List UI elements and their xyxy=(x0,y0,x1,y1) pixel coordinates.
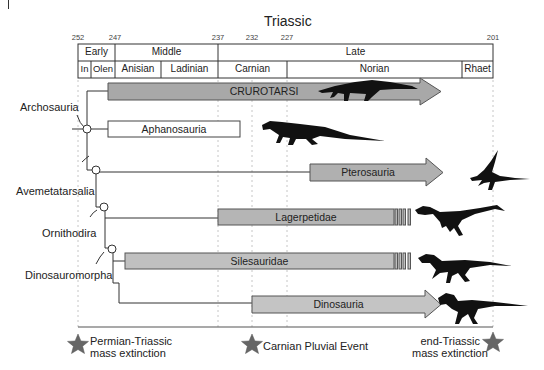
event-end-triassic: end-Triassic mass extinction xyxy=(412,335,480,359)
taxon-crurotarsi: CRUROTARSI xyxy=(108,83,420,99)
stage-anisian: Anisian xyxy=(115,61,161,77)
clade-dinosauromorpha: Dinosauromorpha xyxy=(25,269,112,281)
clade-avemetatarsalia: Avemetatarsalia xyxy=(16,185,95,197)
event-end-triassic-line2: mass extinction xyxy=(412,347,480,359)
clade-archosauria: Archosauria xyxy=(20,101,79,113)
epoch-late: Late xyxy=(218,44,493,60)
event-end-triassic-line1: end-Triassic xyxy=(412,335,480,347)
epoch-early: Early xyxy=(78,44,115,60)
taxon-lagerpetidae: Lagerpetidae xyxy=(218,209,394,225)
stage-induan: In xyxy=(78,61,91,77)
stage-rhaetian: Rhaet xyxy=(462,61,493,77)
taxon-silesauridae: Silesauridae xyxy=(125,253,394,269)
clade-ornithodira: Ornithodira xyxy=(42,227,96,239)
stage-ladinian: Ladinian xyxy=(161,61,218,77)
stage-olenekian: Olen xyxy=(91,61,115,77)
epoch-middle: Middle xyxy=(115,44,218,60)
event-permian-triassic-line2: mass extinction xyxy=(90,347,172,359)
stage-carnian: Carnian xyxy=(218,61,287,77)
taxon-aphanosauria: Aphanosauria xyxy=(108,121,240,137)
event-permian-triassic: Permian-Triassic mass extinction xyxy=(90,335,172,359)
stage-norian: Norian xyxy=(287,61,462,77)
event-permian-triassic-line1: Permian-Triassic xyxy=(90,335,172,347)
taxon-pterosauria: Pterosauria xyxy=(310,164,426,180)
taxon-dinosauria: Dinosauria xyxy=(252,296,425,312)
event-carnian-pluvial: Carnian Pluvial Event xyxy=(263,340,368,352)
